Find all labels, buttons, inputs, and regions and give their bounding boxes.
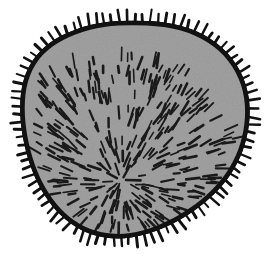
interior-hair — [51, 180, 57, 181]
interior-hair — [190, 197, 199, 198]
figure-root: Spiny spherical microorganism line drawi… — [0, 0, 269, 278]
interior-hair — [68, 193, 75, 194]
interior-hair — [58, 182, 68, 183]
interior-hair — [93, 88, 95, 99]
interior-hair — [186, 178, 199, 180]
interior-hair — [174, 173, 180, 174]
interior-hair — [93, 57, 94, 64]
interior-hair — [136, 109, 137, 118]
interior-hair — [133, 69, 134, 82]
interior-hair — [118, 106, 119, 118]
interior-hair — [149, 74, 151, 82]
interior-hair — [203, 175, 216, 177]
interior-hair — [216, 165, 226, 166]
interior-hair — [89, 81, 90, 92]
interior-hair — [166, 189, 178, 190]
interior-hair — [139, 175, 145, 176]
organism-illustration — [0, 0, 269, 278]
interior-hair — [178, 184, 184, 185]
interior-hair — [118, 66, 119, 73]
interior-hair — [50, 193, 60, 195]
interior-hair — [108, 88, 109, 103]
interior-hair — [64, 178, 77, 179]
